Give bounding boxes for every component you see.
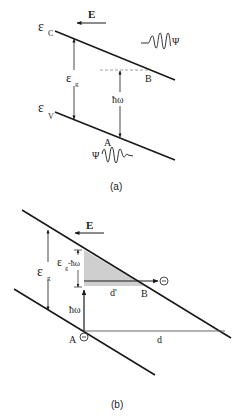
wavefunction-icon-bottom — [102, 147, 133, 163]
point-b-label-b: B — [141, 288, 148, 299]
wavefunction-label-bottom: Ψ — [92, 150, 100, 161]
wavefunction-label-top: Ψ — [172, 36, 180, 47]
panel-b: E ε g ε g -ħω ħω A B d' d (b) — [14, 210, 231, 410]
gap-label-a: ε — [66, 70, 72, 85]
point-b-label-a: B — [145, 73, 152, 84]
conduction-band-sub: C — [48, 29, 53, 38]
valence-band-label: ε — [38, 100, 44, 115]
valence-band-sub: V — [48, 112, 54, 121]
point-a-label-a: A — [104, 137, 112, 148]
caption-b: (b) — [111, 399, 123, 410]
conduction-band-label: ε — [38, 19, 44, 34]
caption-a: (a) — [110, 181, 122, 192]
deficit-suffix: -ħω — [68, 259, 80, 268]
gap-sub-a: g — [75, 80, 79, 88]
photon-energy-label-b: ħω — [69, 304, 81, 315]
wavefunction-icon-top — [141, 33, 171, 49]
point-a-label-b: A — [69, 334, 77, 345]
panel-a: E ε C ε V ε g ħω B A Ψ Ψ (a) — [38, 8, 180, 192]
valence-band-line — [55, 112, 175, 160]
total-distance-label: d — [157, 334, 162, 345]
gap-sub-b: g — [47, 274, 51, 282]
diagram-canvas: E ε C ε V ε g ħω B A Ψ Ψ (a) — [0, 0, 238, 416]
photon-energy-label-a: ħω — [112, 94, 124, 105]
deficit-label: ε — [57, 255, 62, 269]
field-label-a: E — [88, 8, 95, 20]
gap-label-b: ε — [37, 264, 43, 279]
field-label-b: E — [86, 219, 93, 231]
tunnel-distance-label: d' — [110, 287, 117, 298]
